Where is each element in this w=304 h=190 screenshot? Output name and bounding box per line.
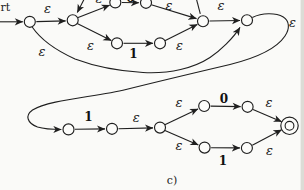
label-eps-s7-s8: ε	[218, 0, 225, 13]
state-s3-clipped	[110, 0, 121, 8]
label-eps-s10-s11: ε	[133, 110, 140, 125]
transition-s13-accept	[253, 109, 282, 121]
label-sym-s12-s13: 0	[220, 92, 228, 106]
label-eps-skip: ε	[39, 44, 46, 59]
label-eps-s15-accept: ε	[266, 143, 273, 158]
transition-s2-s3	[78, 5, 110, 18]
nfa-diagram-canvas: rt ε ε 0 ε ε 1 ε ε ε ε 1 ε ε 0 ε ε 1 ε c…	[0, 0, 304, 190]
transition-s4-s7	[151, 5, 196, 19]
label-eps-s4-s7: ε	[166, 0, 173, 13]
state-s11	[155, 122, 166, 133]
page-edge-strip	[301, 0, 304, 190]
label-sym-s14-s15: 1	[219, 154, 227, 168]
label-eps-s1-s2: ε	[44, 1, 51, 16]
nfa-figure: rt ε ε 0 ε ε 1 ε ε ε ε 1 ε ε 0 ε ε 1 ε c…	[0, 0, 304, 190]
transition-s11-s12	[165, 109, 198, 125]
state-s2	[67, 15, 78, 26]
state-s6	[155, 38, 166, 49]
label-sym-s3-s4-clipped: 0	[126, 0, 134, 5]
state-s9	[63, 124, 74, 135]
state-s15	[241, 143, 252, 154]
loopback-out-of-s7-clipped	[196, 0, 200, 14]
figure-caption: c)	[167, 174, 177, 187]
label-eps-s2-s5: ε	[87, 38, 94, 53]
state-s5	[112, 38, 123, 49]
state-s1	[24, 16, 35, 27]
state-s7	[198, 16, 209, 27]
label-eps-s6-s7: ε	[176, 38, 183, 53]
start-label-clipped: rt	[1, 1, 11, 14]
label-sym-s9-s10: 1	[84, 110, 92, 124]
loopback-into-s2-clipped	[77, 0, 84, 12]
state-s10	[107, 123, 118, 134]
label-eps-s11-s14: ε	[176, 138, 183, 153]
label-eps-wrap: ε	[289, 15, 296, 30]
transition-s2-s5	[77, 23, 111, 40]
state-s8	[242, 15, 253, 26]
label-sym-s5-s6: 1	[129, 47, 137, 61]
state-s14	[199, 142, 210, 153]
transition-s12-s13	[211, 106, 241, 107]
accepting-state-outer-circle	[281, 117, 298, 134]
state-s12	[199, 101, 210, 112]
accepting-state	[281, 117, 298, 134]
transition-s1-s2	[36, 21, 65, 22]
state-s13	[242, 101, 253, 112]
label-eps-s11-s12: ε	[176, 95, 183, 110]
state-s4-clipped	[141, 0, 152, 8]
label-eps-s2-s3-clipped: ε	[96, 0, 103, 6]
transition-s10-s11	[119, 128, 154, 129]
label-eps-s13-accept: ε	[266, 95, 273, 110]
transition-s7-s8	[210, 21, 241, 22]
